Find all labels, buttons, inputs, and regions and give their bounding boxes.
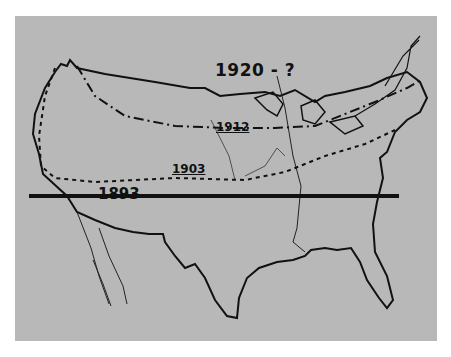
label-1893: 1893 bbox=[98, 185, 140, 203]
label-1912: 1912 bbox=[216, 120, 249, 134]
northeast-coast bbox=[355, 36, 420, 116]
label-1920: 1920 - ? bbox=[215, 60, 295, 80]
us-outline bbox=[33, 60, 427, 318]
map-paper: 1920 - ? 1912 1903 1893 bbox=[15, 16, 437, 341]
baja-lines bbox=[77, 212, 127, 306]
label-1903: 1903 bbox=[172, 162, 205, 176]
